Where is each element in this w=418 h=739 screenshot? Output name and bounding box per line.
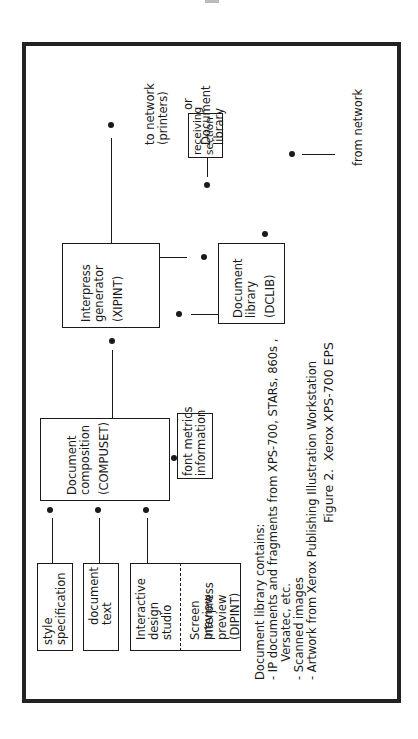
label-line: or [182, 98, 195, 110]
style-specification-label: style specification [42, 572, 68, 645]
label-line: composition [79, 422, 92, 495]
connector-dot [289, 151, 295, 157]
note-item: - Artwork from Xerox Publishing Illustra… [306, 339, 319, 680]
document-library-label: Document library (DCLIB) [232, 258, 277, 318]
or-label: or [182, 98, 195, 110]
label-line: library [213, 85, 226, 145]
connector-xipint-to-network [111, 138, 112, 243]
interpress-preview-label: Interpress preview (DIPINT) [203, 582, 242, 640]
connector-dot [201, 254, 207, 260]
page-number-mark [205, 0, 219, 3]
document-library-contents-note: Document library contains: - IP document… [254, 339, 319, 680]
document-composition-label: Document composition (COMPUSET) [66, 422, 111, 495]
label-line: (DCLIB) [264, 258, 277, 318]
label-line: (DIPINT) [229, 582, 242, 640]
connector-ids-to-compuset [147, 518, 148, 563]
interpress-generator-label: Interpress generator (XIPINT) [80, 264, 125, 322]
label-line: information [195, 406, 208, 476]
connector-dot [109, 338, 115, 344]
connector-xipint-to-dclib [160, 257, 187, 258]
interactive-design-studio-label: Interactive design studio [135, 578, 174, 640]
font-metrics-label: font metrics information [182, 406, 208, 476]
dashed-divider [180, 563, 181, 651]
connector-network-to-receiving [302, 154, 335, 155]
label-line: (COMPUSET) [98, 422, 111, 495]
connector-dot [143, 507, 149, 513]
caption-text: Figure 2. Xerox XPS-700 EPS [322, 342, 335, 523]
label-line: (printers) [157, 83, 170, 145]
connector-compuset-to-xipint [112, 350, 113, 418]
connector-text-to-compuset [99, 518, 100, 563]
connector-receiving-to-dclib [207, 157, 208, 177]
to-network-label: to network (printers) [144, 83, 170, 145]
label-line: studio [161, 578, 174, 640]
figure-caption: Figure 2. Xerox XPS-700 EPS [322, 342, 335, 523]
label-line: specification [55, 572, 68, 645]
connector-dot [95, 507, 101, 513]
document-text-label: document text [88, 567, 114, 625]
connector-style-to-compuset [52, 518, 53, 563]
label-line: generator [93, 264, 106, 322]
from-network-label: from network [352, 89, 365, 166]
connector-dot [176, 311, 182, 317]
label-line: text [101, 567, 114, 625]
connector-dot [108, 122, 114, 128]
document-library-destination-label: Document library [200, 85, 226, 145]
label-line: from network [352, 89, 365, 166]
label-line: library [245, 258, 258, 318]
connector-dot [204, 182, 210, 188]
connector-dclib-to-xipint [191, 314, 218, 315]
connector-dot [47, 507, 53, 513]
label-line: (XIPINT) [112, 264, 125, 322]
connector-dot [262, 231, 268, 237]
